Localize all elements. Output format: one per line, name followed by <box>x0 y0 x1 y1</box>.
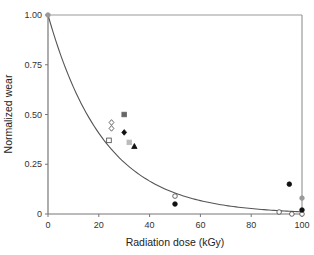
x-tick-label: 80 <box>246 220 256 230</box>
plot-frame <box>48 15 302 214</box>
y-tick-label: 0.75 <box>24 60 42 70</box>
y-tick-label: 1.00 <box>24 10 42 20</box>
open-circle-point <box>277 210 282 215</box>
scatter-chart: 02040608010000.250.500.751.00 Radiation … <box>0 0 314 255</box>
x-tick-label: 20 <box>94 220 104 230</box>
black-circle-point <box>287 182 292 187</box>
x-tick-label: 0 <box>45 220 50 230</box>
axis-ticks: 02040608010000.250.500.751.00 <box>24 10 309 230</box>
gray-circle-point <box>300 196 305 201</box>
black-circle-point <box>300 208 305 213</box>
dark-gray-square-point <box>122 112 127 117</box>
x-tick-label: 40 <box>145 220 155 230</box>
y-tick-label: 0.25 <box>24 159 42 169</box>
x-axis-title: Radiation dose (kGy) <box>126 236 225 248</box>
open-square-point <box>107 138 112 143</box>
x-tick-label: 100 <box>294 220 309 230</box>
gray-circle-point <box>46 13 51 18</box>
black-triangle-point <box>132 144 137 149</box>
x-tick-label: 60 <box>195 220 205 230</box>
open-circle-point <box>290 212 295 217</box>
y-tick-label: 0 <box>37 209 42 219</box>
black-diamond-point <box>122 130 127 136</box>
open-diamond-point <box>109 126 114 132</box>
open-diamond-point <box>109 120 114 126</box>
light-gray-square-point <box>127 140 132 145</box>
y-tick-label: 0.50 <box>24 110 42 120</box>
fit-curve-line <box>48 15 302 212</box>
data-points <box>46 13 305 217</box>
black-circle-point <box>173 202 178 207</box>
y-axis-title: Normalized wear <box>2 74 14 153</box>
open-circle-point <box>173 194 178 199</box>
fit-curve-layer <box>48 15 302 212</box>
